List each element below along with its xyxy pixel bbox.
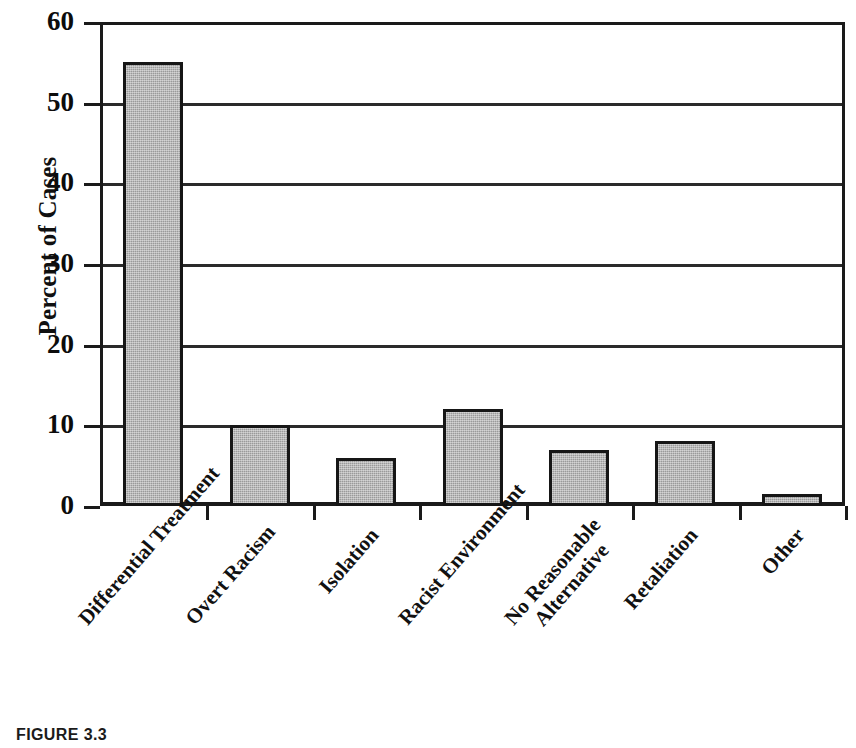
x-axis-category-label: Other bbox=[713, 524, 809, 629]
bar bbox=[443, 409, 503, 506]
x-axis-category-label-line: Overt Racism bbox=[180, 520, 280, 629]
x-axis-category-label: No ReasonableAlternative bbox=[500, 524, 613, 644]
x-axis-category-label: Retaliation bbox=[607, 524, 703, 629]
x-axis-category-label: Racist Environment bbox=[394, 524, 490, 629]
y-axis-tick-mark bbox=[84, 425, 100, 428]
y-axis-tick-mark bbox=[84, 103, 100, 106]
y-axis-tick-label: 50 bbox=[12, 89, 74, 116]
figure-caption: FIGURE 3.3 bbox=[16, 726, 107, 744]
x-axis-category-label-line: Isolation bbox=[314, 523, 383, 598]
x-axis-tick-mark bbox=[206, 506, 209, 520]
bar bbox=[655, 441, 715, 506]
x-axis-category-label: Overt Racism bbox=[181, 524, 277, 629]
bar bbox=[123, 62, 183, 506]
x-axis-tick-mark bbox=[313, 506, 316, 520]
y-axis-tick-label: 60 bbox=[12, 8, 74, 35]
x-axis-category-label-line: Other bbox=[756, 523, 809, 579]
x-axis-tick-mark bbox=[526, 506, 529, 520]
y-axis-tick-label: 0 bbox=[12, 492, 74, 519]
y-axis-tick-label: 40 bbox=[12, 169, 74, 196]
y-axis-tick-mark bbox=[84, 183, 100, 186]
y-axis-tick-label: 30 bbox=[12, 250, 74, 277]
x-axis-tick-mark bbox=[419, 506, 422, 520]
x-axis-category-label: Differential Treatment bbox=[74, 524, 170, 629]
bar bbox=[336, 458, 396, 506]
y-axis-tick-mark bbox=[84, 345, 100, 348]
x-axis-tick-mark bbox=[632, 506, 635, 520]
x-axis-tick-mark bbox=[739, 506, 742, 520]
bar bbox=[230, 425, 290, 506]
bar bbox=[549, 450, 609, 506]
x-axis-tick-mark bbox=[845, 506, 848, 520]
y-axis-tick-mark bbox=[84, 22, 100, 25]
y-axis-tick-labels: 0102030405060 bbox=[0, 0, 74, 748]
x-axis-category-label: Isolation bbox=[287, 524, 383, 629]
y-axis-tick-label: 20 bbox=[12, 331, 74, 358]
figure-bar-chart: Percent of Cases 0102030405060 Different… bbox=[0, 0, 856, 748]
y-axis-tick-label: 10 bbox=[12, 411, 74, 438]
bar bbox=[762, 494, 822, 506]
y-axis-tick-mark bbox=[84, 264, 100, 267]
x-axis-category-label-line: Retaliation bbox=[620, 523, 703, 614]
bars-layer bbox=[100, 22, 845, 506]
y-axis-tick-mark bbox=[84, 506, 100, 509]
